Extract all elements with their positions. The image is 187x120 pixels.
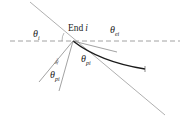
theta-ei-label: θei bbox=[110, 24, 120, 37]
lower-left-line-2 bbox=[59, 41, 73, 91]
end-angle-diagram: θi Endi θei θpi θpi 90° bbox=[0, 0, 187, 120]
theta-pi-label-left: θpi bbox=[50, 69, 60, 82]
theta-i-arc bbox=[62, 33, 64, 41]
diagonal-line bbox=[30, 2, 165, 115]
theta-i-label: θi bbox=[33, 28, 40, 41]
right-angle-label: 90° bbox=[53, 57, 60, 65]
end-i-label: Endi bbox=[68, 23, 88, 33]
theta-pi-label-right: θpi bbox=[81, 53, 91, 66]
